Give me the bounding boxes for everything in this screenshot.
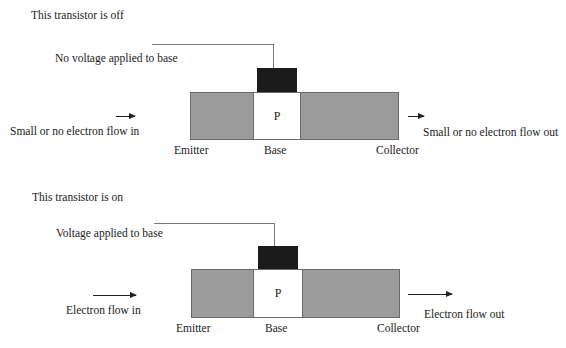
p-type-label-on: P	[275, 286, 282, 301]
base-wire-horizontal-off	[152, 44, 274, 45]
collector-label-on: Collector	[377, 322, 420, 335]
base-contact-off	[257, 68, 297, 93]
base-wire-horizontal-on	[154, 223, 275, 224]
base-label-off: Base	[264, 144, 286, 157]
flow-in-label-on: Electron flow in	[66, 304, 141, 317]
flow-in-label-off: Small or no electron flow in	[10, 125, 139, 138]
base-label-on: Base	[265, 322, 287, 335]
flow-in-arrow-icon-on	[93, 295, 136, 296]
base-region-off: P	[253, 92, 301, 140]
collector-label-off: Collector	[376, 144, 419, 157]
emitter-label-on: Emitter	[176, 322, 211, 335]
base-wire-vertical-on	[274, 223, 275, 246]
diagram-title-on: This transistor is on	[32, 191, 123, 204]
base-region-on: P	[253, 269, 303, 318]
emitter-region-off	[190, 92, 254, 140]
flow-out-arrow-icon-on	[408, 294, 452, 295]
flow-in-arrow-icon-off	[116, 116, 135, 117]
base-voltage-label-on: Voltage applied to base	[56, 227, 163, 240]
flow-out-arrow-icon-off	[408, 116, 424, 117]
base-voltage-label-off: No voltage applied to base	[55, 52, 178, 65]
base-wire-vertical-off	[273, 44, 274, 68]
flow-out-label-on: Electron flow out	[424, 308, 504, 321]
p-type-label-off: P	[274, 109, 281, 124]
base-contact-on	[258, 246, 298, 270]
collector-region-on	[302, 269, 400, 318]
emitter-label-off: Emitter	[174, 144, 209, 157]
diagram-title-off: This transistor is off	[31, 9, 124, 22]
flow-out-label-off: Small or no electron flow out	[423, 126, 558, 139]
collector-region-off	[300, 92, 399, 140]
emitter-region-on	[191, 269, 254, 318]
